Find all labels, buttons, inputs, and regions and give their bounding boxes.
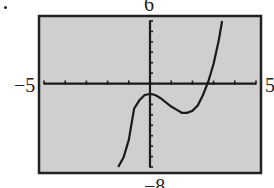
xmin-label: −5 — [14, 75, 35, 95]
xmax-label: 5 — [265, 75, 274, 95]
ymax-label: 6 — [144, 0, 154, 14]
ymin-label: −8 — [144, 176, 165, 188]
graph-window — [0, 0, 274, 188]
